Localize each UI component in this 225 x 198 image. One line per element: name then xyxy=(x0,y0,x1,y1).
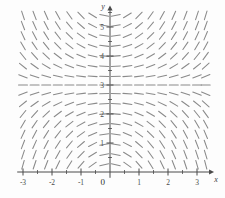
x-axis-label: x xyxy=(213,175,218,184)
y-tick-label: 5 xyxy=(100,23,104,32)
slope-field-canvas: -3-2-1123123450xy xyxy=(0,0,225,198)
x-tick-label: -1 xyxy=(78,178,84,187)
y-tick-label: 4 xyxy=(100,52,104,61)
slope-field-figure: -3-2-1123123450xy xyxy=(0,0,225,198)
slope-field-segments xyxy=(19,11,211,169)
y-tick-label: 1 xyxy=(100,139,104,148)
y-tick-label: 2 xyxy=(100,110,104,119)
x-tick-label: 2 xyxy=(166,178,170,187)
x-tick-label: -2 xyxy=(49,178,55,187)
x-tick-label: 3 xyxy=(195,178,199,187)
origin-label: 0 xyxy=(101,177,106,187)
y-axis-label: y xyxy=(100,2,105,11)
y-tick-label: 3 xyxy=(100,81,104,90)
x-tick-label: -3 xyxy=(20,178,26,187)
x-tick-label: 1 xyxy=(137,178,141,187)
